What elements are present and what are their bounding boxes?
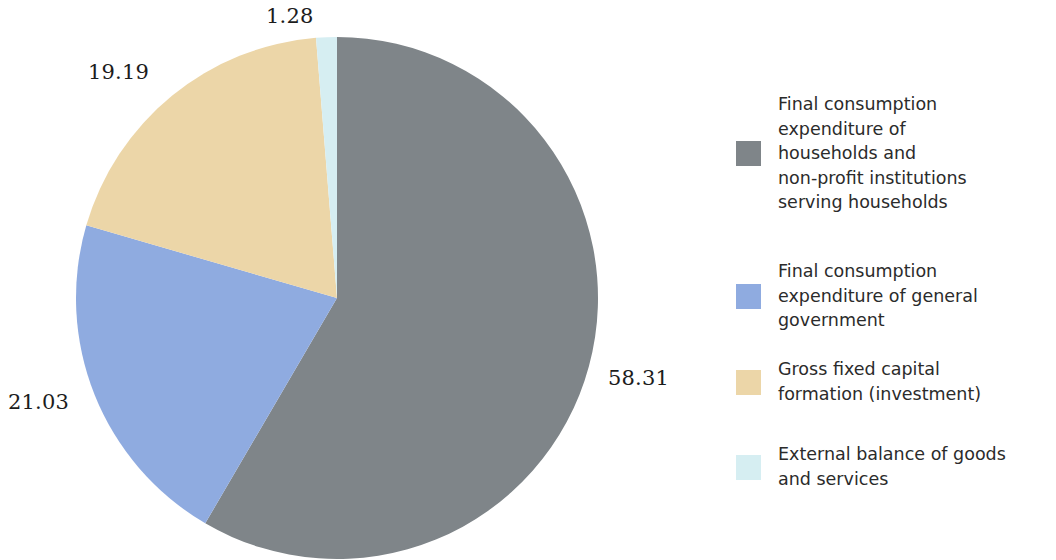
legend-item-households[interactable]: Final consumption expenditure of househo…	[736, 92, 967, 215]
pie-chart-figure: 1.28 19.19 21.03 58.31 Final consumption…	[0, 0, 1056, 560]
legend-swatch-external-balance	[736, 455, 761, 480]
pie-chart-svg	[0, 0, 720, 560]
legend-label-external-balance: External balance of goods and services	[778, 442, 1006, 491]
legend-item-gross-fixed-capital-formation[interactable]: Gross fixed capital formation (investmen…	[736, 357, 981, 406]
legend-swatch-households	[736, 141, 761, 166]
legend-item-general-government[interactable]: Final consumption expenditure of general…	[736, 259, 978, 333]
legend-item-external-balance[interactable]: External balance of goods and services	[736, 442, 1006, 491]
pie-value-label-external-balance: 1.28	[266, 4, 314, 28]
legend-label-general-government: Final consumption expenditure of general…	[778, 259, 978, 333]
pie-slice-group	[76, 37, 598, 559]
legend-label-gross-fixed-capital-formation: Gross fixed capital formation (investmen…	[778, 357, 981, 406]
legend-swatch-gross-fixed-capital-formation	[736, 370, 761, 395]
legend-swatch-general-government	[736, 284, 761, 309]
pie-value-label-general-government: 21.03	[8, 390, 69, 414]
pie-value-label-gross-fixed-capital-formation: 19.19	[88, 60, 149, 84]
pie-value-label-households: 58.31	[608, 366, 669, 390]
pie-chart-plot-area	[0, 0, 720, 560]
legend-label-households: Final consumption expenditure of househo…	[778, 92, 967, 215]
